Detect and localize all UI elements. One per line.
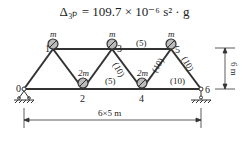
mass-icon [78, 78, 88, 88]
mass-label: 2m [137, 68, 149, 78]
hinge-icon [199, 87, 203, 91]
hinge-icon [22, 87, 26, 91]
node-label: 3 [117, 43, 122, 54]
member-label: (10) [170, 76, 185, 86]
mass-icon [137, 78, 147, 88]
truss-svg: 0 1 2 3 4 5 6 m m m 2m 2m (5) (10) (5) (… [0, 0, 249, 142]
mass-label: m [168, 29, 175, 39]
member-0-1 [24, 49, 53, 89]
mass-label: m [50, 29, 57, 39]
member-label: (5) [105, 76, 116, 86]
span-dimension-label: 6×5 m [98, 108, 121, 118]
member-label: (10) [180, 55, 196, 73]
node-label: 5 [175, 44, 180, 55]
truss-diagram: Δ₃ₚ = 109.7 × 10⁻⁶ s² · g [0, 0, 249, 142]
node-label: 6 [205, 84, 210, 95]
node-label: 4 [139, 93, 144, 104]
mass-label: m [109, 29, 116, 39]
mass-label: 2m [78, 68, 90, 78]
node-labels: 0 1 2 3 4 5 6 [16, 43, 210, 104]
node-label: 1 [45, 43, 50, 54]
node-label: 0 [16, 83, 21, 94]
mass-icon [107, 39, 117, 49]
member-label: (5) [136, 38, 147, 48]
node-label: 2 [80, 93, 85, 104]
height-dimension-label: 6 m [229, 62, 239, 76]
